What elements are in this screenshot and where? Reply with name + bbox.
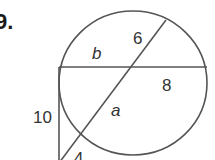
label-b: b [92, 44, 101, 63]
label-10: 10 [33, 108, 52, 127]
geometry-diagram: 9. b 6 8 a 10 4 [0, 0, 215, 160]
problem-number: 9. [0, 9, 13, 34]
label-a: a [111, 101, 120, 120]
label-6: 6 [133, 29, 142, 48]
secant-line [59, 20, 166, 160]
label-8: 8 [162, 76, 171, 95]
label-4: 4 [74, 149, 83, 160]
